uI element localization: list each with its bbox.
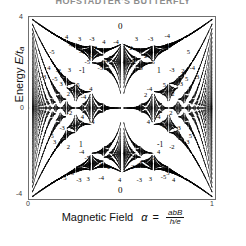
y-tick-bottom: -4: [16, 190, 22, 197]
x-tick-right: 1: [210, 200, 214, 207]
y-axis-label-symbol: E/t: [13, 51, 25, 64]
butterfly-spectrum-svg: [29, 17, 215, 199]
hofstadter-butterfly-figure: HOFSTADTER'S BUTTERFLY 4 0 -4 0 1 Energy…: [0, 0, 246, 246]
x-axis-label-text: Magnetic Field: [62, 211, 134, 223]
x-axis-label-symbol: α: [141, 211, 147, 223]
x-axis-label-equals: =: [153, 211, 159, 223]
fraction-denominator: h/e: [166, 218, 184, 226]
x-axis-label: Magnetic Field α = abB h/e: [0, 209, 246, 227]
y-axis-label-subscript: a: [17, 47, 26, 51]
figure-title: HOFSTADTER'S BUTTERFLY: [0, 0, 246, 5]
y-axis-label: Energy E/ta: [13, 20, 26, 130]
y-axis-label-text: Energy: [13, 68, 25, 103]
x-tick-left: 0: [26, 200, 30, 207]
plot-area[interactable]: [28, 16, 216, 200]
spectrum-points: [29, 17, 215, 197]
x-axis-label-fraction: abB h/e: [166, 209, 184, 227]
